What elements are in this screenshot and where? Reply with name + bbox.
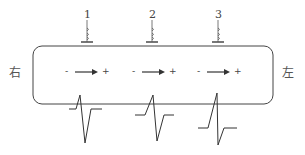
- plus-sign: +: [102, 67, 110, 76]
- plus-sign: +: [169, 67, 177, 76]
- minus-sign: -: [197, 67, 200, 76]
- side-label-right: 右: [9, 67, 21, 79]
- electrode-2: [146, 20, 158, 42]
- arrow-icon: [75, 69, 98, 75]
- side-label-left: 左: [282, 67, 294, 79]
- minus-sign: -: [132, 67, 135, 76]
- minus-sign: -: [65, 67, 68, 76]
- arrow-icon: [207, 69, 230, 75]
- waveform-3: [198, 93, 237, 145]
- electrode-3: [212, 20, 224, 42]
- electrode-label-1: 1: [84, 9, 91, 20]
- diagram-canvas: [0, 0, 305, 155]
- plus-sign: +: [234, 67, 242, 76]
- electrode-label-2: 2: [149, 9, 156, 20]
- waveform-2: [135, 95, 174, 141]
- arrow-icon: [142, 69, 165, 75]
- electrode-1: [81, 20, 93, 42]
- waveform-1: [69, 95, 102, 143]
- electrode-label-3: 3: [215, 9, 222, 20]
